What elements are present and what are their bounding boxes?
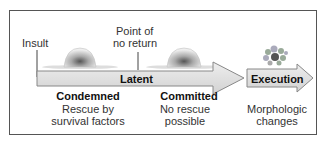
phase-condemned-desc-1: Rescue by xyxy=(45,103,131,115)
point-of-no-return-label-1: Point of xyxy=(116,25,153,37)
phase-execution-desc-2: changes xyxy=(242,115,312,127)
phase-committed-title: Committed xyxy=(156,90,222,102)
execution-label: Execution xyxy=(251,73,304,85)
phase-execution-desc-1: Morphologic xyxy=(242,103,312,115)
normal-cell-icon xyxy=(42,48,118,69)
normal-cell-icon xyxy=(146,48,222,69)
phase-committed-desc-1: No rescue xyxy=(152,103,218,115)
fragmented-cell-icon xyxy=(263,46,288,66)
point-of-no-return-label-2: no return xyxy=(113,37,157,49)
phase-condemned-desc-2: survival factors xyxy=(45,115,131,127)
insult-label: Insult xyxy=(22,37,48,49)
latent-label: Latent xyxy=(120,73,153,85)
phase-condemned-title: Condemned xyxy=(55,90,121,102)
phase-committed-desc-2: possible xyxy=(152,115,218,127)
